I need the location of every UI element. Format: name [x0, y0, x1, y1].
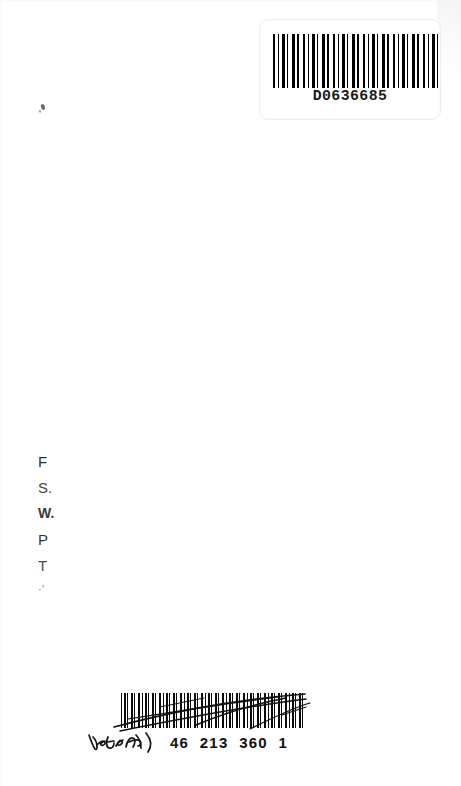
stamp-line-3: W.: [38, 506, 78, 532]
stamp-line-1: F: [38, 454, 78, 480]
page-left-edge: [0, 0, 3, 786]
top-barcode-value: D0636685: [255, 88, 446, 104]
stamp-line-5: T: [38, 558, 78, 584]
faded-library-stamp: F S. W. P T ·’: [38, 454, 78, 610]
page-top-edge: [0, 0, 461, 2]
bottom-barcode-bars: [121, 693, 306, 728]
bottom-annotation-row: 46 213 360 1: [86, 729, 288, 755]
stamp-line-4: P: [38, 532, 78, 558]
stamp-line-6: ·’: [38, 584, 78, 610]
handwritten-signature: [86, 729, 164, 755]
scanned-page: D0636685 F S. W. P T ·’: [0, 0, 461, 786]
top-barcode-bars: [273, 34, 438, 88]
stamp-line-2: S.: [38, 480, 78, 506]
bottom-barcode-label: [121, 693, 306, 728]
top-barcode-label: D0636685: [259, 19, 441, 120]
bottom-printed-number: 46 213 360 1: [170, 734, 288, 751]
